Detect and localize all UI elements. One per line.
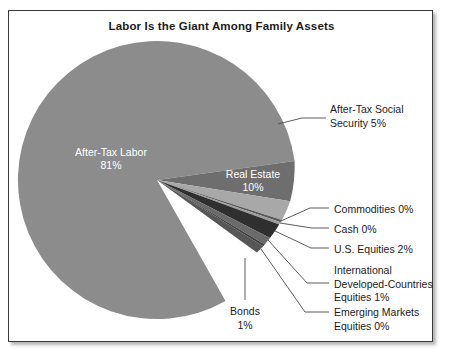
callout-cash: Cash 0%: [334, 223, 446, 237]
callout-us-equities-line1: U.S. Equities 2%: [334, 243, 446, 257]
callout-after-tax-social-security: After-Tax Social Security 5%: [330, 103, 445, 130]
slice-label-after-tax-labor: After-Tax Labor 81%: [46, 146, 176, 172]
callout-intl-equities-line1: International: [334, 264, 446, 278]
callout-emerging-line1: Emerging Markets: [334, 306, 446, 320]
callout-bonds: Bonds 1%: [213, 305, 277, 332]
callout-intl-equities-line2: Developed-Countries: [334, 278, 446, 292]
slice-label-real-estate-name: Real Estate: [198, 168, 308, 181]
callout-cash-line1: Cash 0%: [334, 223, 446, 237]
callout-bonds-line2: 1%: [213, 319, 277, 333]
callout-commodities: Commodities 0%: [334, 203, 446, 217]
slice-label-after-tax-labor-name: After-Tax Labor: [46, 146, 176, 159]
slice-label-real-estate-value: 10%: [198, 181, 308, 194]
callout-social-security-line2: Security 5%: [330, 117, 445, 131]
chart-title: Labor Is the Giant Among Family Assets: [9, 20, 434, 32]
slice-label-after-tax-labor-value: 81%: [46, 159, 176, 172]
callout-commodities-line1: Commodities 0%: [334, 203, 446, 217]
callout-us-equities: U.S. Equities 2%: [334, 243, 446, 257]
callout-bonds-line1: Bonds: [213, 305, 277, 319]
callout-emerging-markets-equities: Emerging Markets Equities 0%: [334, 306, 446, 333]
slice-label-real-estate: Real Estate 10%: [198, 168, 308, 194]
pie-chart-figure: Labor Is the Giant Among Family Assets: [0, 0, 449, 360]
callout-intl-developed-equities: International Developed-Countries Equiti…: [334, 264, 446, 305]
callout-emerging-line2: Equities 0%: [334, 320, 446, 334]
callout-intl-equities-line3: Equities 1%: [334, 291, 446, 305]
callout-social-security-line1: After-Tax Social: [330, 103, 445, 117]
